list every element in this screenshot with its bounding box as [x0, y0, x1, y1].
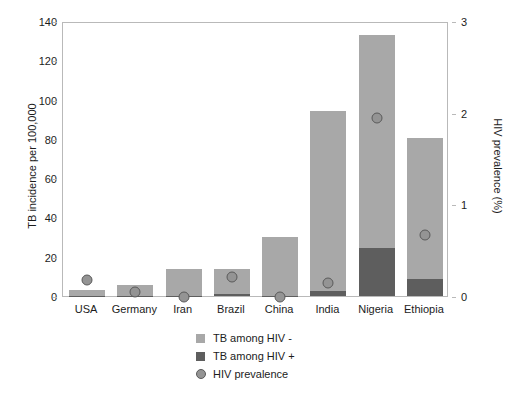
bar-segment-hiv-positive: [407, 279, 443, 296]
bar-segment-hiv-positive: [214, 294, 250, 296]
x-axis-label: China: [265, 303, 294, 315]
x-axis-label: Germany: [112, 303, 157, 315]
y-tick-mark-left: [53, 258, 57, 259]
y-tick-mark-left: [53, 179, 57, 180]
hiv-prevalence-point: [82, 274, 93, 285]
bar-segment-hiv-negative: [310, 111, 346, 291]
y-tick-mark-right: [452, 22, 456, 23]
y-axis-left-title: TB incidence per 100,000: [26, 66, 38, 266]
bar-group: [262, 237, 298, 296]
y-tick-mark-left: [53, 101, 57, 102]
x-axis-label: India: [315, 303, 339, 315]
bar-segment-hiv-negative: [359, 35, 395, 248]
hiv-prevalence-point: [226, 271, 237, 282]
bar-group: [69, 290, 105, 296]
y-tick-label-left: 0: [9, 292, 57, 303]
hiv-prevalence-point: [419, 229, 430, 240]
plot-area: [62, 22, 448, 297]
x-axis-labels: USAGermanyIranBrazilChinaIndiaNigeriaEth…: [62, 303, 448, 319]
hiv-prevalence-point: [178, 291, 189, 302]
bar-segment-hiv-positive: [359, 248, 395, 296]
x-axis-label: Brazil: [217, 303, 245, 315]
y-tick-label-right: 2: [461, 108, 467, 119]
hiv-prevalence-point: [323, 278, 334, 289]
x-axis-label: Nigeria: [358, 303, 393, 315]
legend-label: HIV prevalence: [213, 369, 288, 380]
y-tick-mark-left: [53, 218, 57, 219]
bar-segment-hiv-positive: [310, 291, 346, 296]
y-tick-mark-left: [53, 140, 57, 141]
bar-group: [407, 137, 443, 296]
y-tick-label-left: 140: [9, 17, 57, 28]
y-axis-right-title: HIV prevalence (%): [492, 66, 504, 266]
bar-segment-hiv-negative: [69, 290, 105, 296]
hiv-prevalence-point: [275, 291, 286, 302]
legend-label: TB among HIV -: [213, 333, 292, 344]
legend-square-icon: [196, 334, 205, 343]
tb-hiv-chart-figure: 020406080100120140 TB incidence per 100,…: [0, 0, 518, 400]
bar-segment-hiv-negative: [407, 138, 443, 279]
legend-item: TB among HIV +: [196, 348, 295, 364]
hiv-prevalence-point: [371, 113, 382, 124]
x-axis-label: Iran: [173, 303, 192, 315]
legend-item: HIV prevalence: [196, 366, 295, 382]
y-tick-mark-right: [452, 297, 456, 298]
y-tick-label-right: 3: [461, 17, 467, 28]
y-axis-right: 0123: [452, 22, 492, 297]
x-axis-label: USA: [75, 303, 98, 315]
y-tick-mark-left: [53, 297, 57, 298]
bar-segment-hiv-negative: [262, 237, 298, 296]
bar-group: [359, 35, 395, 296]
hiv-prevalence-point: [130, 287, 141, 298]
bars-layer: [63, 23, 447, 296]
y-tick-mark-left: [53, 22, 57, 23]
y-tick-label-right: 1: [461, 200, 467, 211]
y-tick-mark-right: [452, 205, 456, 206]
bar-group: [310, 111, 346, 296]
legend-square-icon: [196, 352, 205, 361]
x-axis-label: Ethiopia: [404, 303, 444, 315]
y-tick-mark-left: [53, 61, 57, 62]
y-tick-mark-right: [452, 114, 456, 115]
legend-item: TB among HIV -: [196, 330, 295, 346]
legend-circle-icon: [196, 369, 206, 379]
y-tick-label-right: 0: [461, 292, 467, 303]
legend-label: TB among HIV +: [213, 351, 295, 362]
chart-legend: TB among HIV -TB among HIV +HIV prevalen…: [196, 330, 295, 384]
